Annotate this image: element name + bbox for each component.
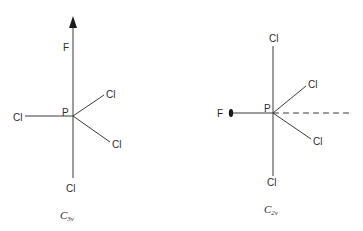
atom-cl-lower-right-label: Cl [112, 139, 121, 150]
atom-cl-top-label: Cl [269, 33, 278, 44]
c3v-structure: F P Cl Cl Cl Cl C3v [13, 16, 121, 223]
atom-p-label: P [264, 103, 271, 114]
atom-cl-bottom-label: Cl [267, 177, 276, 188]
point-group-label-c3v: C3v [60, 209, 75, 223]
bond-cl-upper-right [273, 86, 306, 113]
c3-axis-arrowhead-icon [69, 16, 77, 28]
bond-cl-upper-right [73, 95, 104, 116]
atom-cl-lower-right-label: Cl [313, 136, 322, 147]
atom-cl-upper-right-label: Cl [308, 79, 317, 90]
atom-cl-bottom-label: Cl [66, 183, 75, 194]
point-group-label-c2v: C2v [264, 203, 279, 217]
atom-f-label: F [63, 42, 69, 53]
bond-cl-lower-right [273, 113, 311, 139]
c2v-structure: F P Cl Cl Cl Cl C2v [217, 33, 352, 217]
symmetry-diagrams: F P Cl Cl Cl Cl C3v F P Cl Cl Cl Cl C2v [0, 0, 363, 231]
bond-cl-lower-right [73, 116, 110, 142]
atom-p-label: P [62, 107, 69, 118]
atom-cl-left-label: Cl [13, 112, 22, 123]
atom-cl-upper-right-label: Cl [106, 89, 115, 100]
atom-f-label: F [217, 108, 223, 119]
c2-axis-ellipse-icon [229, 109, 233, 117]
